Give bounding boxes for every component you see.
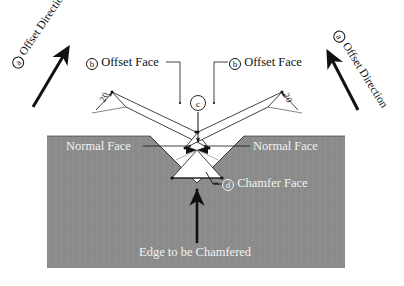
normal-face-label-right: Normal Face — [253, 140, 318, 153]
marker-d-icon: d — [222, 179, 234, 191]
edge-to-be-chamfered-label: Edge to be Chamfered — [139, 246, 251, 259]
vertex-marker-letter: c — [196, 99, 200, 109]
offset-face-right-leader — [214, 62, 228, 103]
dimension-20-left-extension — [92, 107, 126, 113]
corner-dot — [170, 176, 173, 179]
chamfer-face-label: d Chamfer Face — [222, 177, 308, 191]
marker-b-icon: b — [229, 58, 241, 70]
normal-face-label-left: Normal Face — [66, 140, 131, 153]
offset-face-left-leader — [166, 62, 180, 103]
diagram-canvas: c a Offset Direction a Offset Direction … — [0, 0, 404, 286]
offset-face-label-left: b Offset Face — [86, 56, 159, 70]
offset-face-left-text: Offset Face — [101, 55, 159, 69]
dimension-20-right-extension — [268, 107, 302, 113]
offset-direction-arrow-left — [33, 48, 68, 107]
chamfer-face-triangle — [172, 150, 222, 178]
marker-b-icon: b — [86, 58, 98, 70]
offset-face-label-right: b Offset Face — [229, 56, 302, 70]
chamfer-face-text: Chamfer Face — [237, 176, 307, 190]
corner-dot — [195, 188, 198, 191]
offset-face-right-text: Offset Face — [244, 55, 302, 69]
